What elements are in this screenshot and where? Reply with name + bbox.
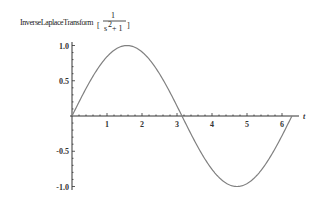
x-tick-label: 5 [245,120,249,129]
x-tick-label: 4 [210,120,214,129]
x-tick-label: 2 [140,120,144,129]
title-numerator: 1 [111,11,115,20]
title-close-bracket: ] [127,21,130,30]
x-tick-label: 6 [280,120,284,129]
title-function: InverseLaplaceTransform [20,18,94,27]
title-open-bracket: [ [97,21,100,30]
y-tick-label: -0.5 [56,147,69,156]
y-tick-label: 1.0 [59,42,69,51]
x-tick-label: 3 [175,120,179,129]
chart-title: InverseLaplaceTransform [ 1 s 2 + 1 ] [20,11,130,33]
chart-canvas: InverseLaplaceTransform [ 1 s 2 + 1 ] 12… [0,0,327,201]
axes [70,42,299,190]
x-axis-label: t [303,112,306,121]
y-tick-label: 0.5 [59,77,69,86]
title-denominator-rest: + 1 [112,24,123,33]
title-denominator-base: s [104,24,107,33]
x-tick-label: 1 [105,120,109,129]
y-tick-label: -1.0 [56,183,69,192]
